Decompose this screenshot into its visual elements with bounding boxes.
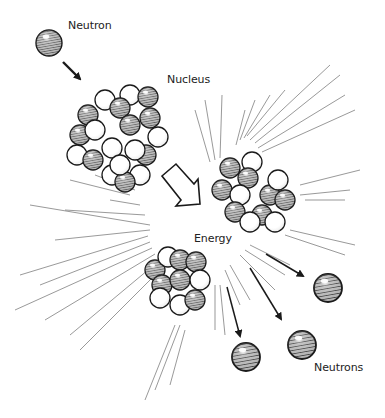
fission-illustration (0, 0, 385, 418)
incoming-neutron (36, 30, 62, 56)
neutron-arrow-1 (227, 287, 240, 336)
released-neutron-1 (232, 343, 260, 371)
neutron-arrow-2 (250, 268, 281, 319)
released-neutron-3 (314, 274, 342, 302)
incoming-arrow (63, 62, 80, 79)
neutron-label: Neutron (68, 19, 112, 32)
fragment-upper-right (212, 152, 295, 232)
split-arrow-icon (162, 164, 200, 206)
fission-diagram: Neutron Nucleus Energy Neutrons (0, 0, 385, 418)
released-neutron-2 (288, 331, 316, 359)
energy-label: Energy (194, 232, 232, 245)
neutron-arrow-3 (266, 254, 303, 276)
nucleus-label: Nucleus (167, 73, 210, 86)
fragment-lower-left (145, 247, 210, 315)
target-nucleus (67, 85, 168, 192)
neutrons-label: Neutrons (314, 361, 363, 374)
